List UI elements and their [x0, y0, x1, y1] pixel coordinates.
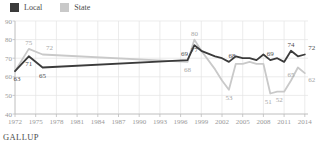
data-point-label-local: 63 [14, 75, 22, 83]
legend-item-local: Local [10, 3, 42, 12]
chart-plot-area: 1972197519781981198419871990199319961999… [0, 0, 319, 144]
y-tick-label: 40 [5, 111, 13, 119]
data-point-label-local: 68 [228, 52, 236, 60]
data-point-label-local: 69 [267, 50, 275, 58]
data-point-label-local: 71 [25, 60, 33, 68]
x-tick-label: 1984 [91, 118, 106, 126]
y-tick-label: 60 [5, 73, 13, 81]
legend-item-state: State [60, 3, 90, 12]
data-point-label-local: 65 [39, 72, 47, 80]
data-point-label-local: 74 [288, 41, 296, 49]
y-tick-label: 50 [5, 92, 13, 100]
x-tick-label: 1978 [49, 118, 64, 126]
legend-label-local: Local [24, 3, 42, 12]
data-point-label-state: 80 [191, 30, 199, 38]
x-tick-label: 2014 [298, 118, 313, 126]
x-tick-label: 2008 [256, 118, 271, 126]
data-point-label-state: 52 [276, 96, 284, 104]
x-tick-label: 2011 [277, 118, 291, 126]
data-point-label-state: 75 [25, 39, 33, 47]
x-tick-label: 1981 [70, 118, 85, 126]
data-point-label-state: 51 [265, 98, 273, 106]
x-tick-label: 1993 [153, 118, 168, 126]
x-tick-label: 2005 [236, 118, 251, 126]
x-tick-label: 1987 [112, 118, 127, 126]
chart-legend: Local State [10, 3, 90, 12]
data-point-label-state: 53 [225, 94, 233, 102]
state-series-swatch-icon [60, 3, 69, 12]
x-tick-label: 1999 [194, 118, 209, 126]
x-tick-label: 1990 [132, 118, 147, 126]
x-tick-label: 1972 [8, 118, 23, 126]
data-point-label-state: 68 [184, 66, 192, 74]
x-tick-label: 2002 [215, 118, 230, 126]
data-point-label-local: 72 [308, 44, 316, 52]
gallup-trust-chart: 1972197519781981198419871990199319961999… [0, 0, 319, 144]
data-point-label-local: 69 [181, 50, 189, 58]
source-attribution: GALLUP [3, 132, 39, 142]
data-point-label-state: 72 [46, 44, 54, 52]
data-point-label-state: 62 [308, 76, 316, 84]
x-tick-label: 1975 [29, 118, 44, 126]
y-tick-label: 90 [5, 18, 13, 26]
y-tick-label: 70 [5, 55, 13, 63]
x-tick-label: 1996 [174, 118, 189, 126]
data-point-label-local: 77 [191, 46, 199, 54]
legend-label-state: State [74, 3, 90, 12]
y-tick-label: 80 [5, 36, 13, 44]
local-series-swatch-icon [10, 3, 19, 12]
data-point-label-state: 65 [287, 71, 295, 79]
